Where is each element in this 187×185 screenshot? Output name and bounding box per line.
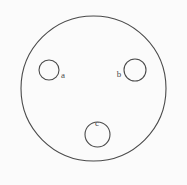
inner-circle-b (124, 59, 146, 81)
outer-boundary-circle (21, 16, 166, 161)
diagram-canvas: a b c (0, 0, 187, 185)
diagram-svg (0, 0, 187, 185)
region-label-c: c (95, 119, 99, 128)
inner-circle-a (39, 60, 59, 80)
region-label-a: a (61, 71, 65, 80)
region-label-b: b (117, 70, 122, 79)
